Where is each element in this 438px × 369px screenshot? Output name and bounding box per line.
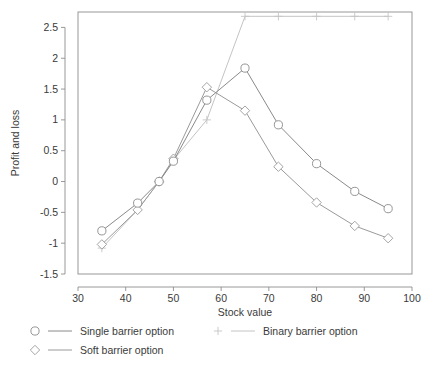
x-tick-label: 80 [311, 292, 323, 304]
chart-canvas: -1.5-1-0.500.511.522.5Profit and loss304… [0, 0, 438, 369]
series-point-circle [134, 199, 142, 207]
series-point-circle [169, 157, 177, 165]
x-tick-label: 100 [403, 292, 421, 304]
series-point-circle [203, 96, 211, 104]
y-tick-label: 2 [52, 52, 58, 64]
series-line [102, 68, 388, 231]
series-point-circle [351, 187, 359, 195]
plot-frame [78, 12, 412, 274]
series-point-circle [384, 205, 392, 213]
series-line [102, 16, 388, 248]
legend-label: Soft barrier option [80, 344, 164, 356]
series-point-plus [384, 12, 392, 20]
series-point-diamond [383, 234, 392, 243]
x-axis-title: Stock value [218, 306, 272, 318]
chart-figure: -1.5-1-0.500.511.522.5Profit and loss304… [0, 0, 438, 369]
legend-label: Single barrier option [80, 325, 174, 337]
series-point-circle [274, 121, 282, 129]
x-tick-label: 60 [215, 292, 227, 304]
plus-icon [214, 327, 222, 335]
y-tick-label: -1 [49, 237, 58, 249]
y-tick-label: 0 [52, 175, 58, 187]
series-point-diamond [350, 221, 359, 230]
x-tick-label: 30 [72, 292, 84, 304]
series-point-plus [241, 12, 249, 20]
series-point-diamond [202, 83, 211, 92]
y-tick-label: 1 [52, 113, 58, 125]
series-point-circle [312, 160, 320, 168]
x-tick-label: 40 [120, 292, 132, 304]
series-point-plus [351, 12, 359, 20]
y-tick-label: -0.5 [40, 206, 58, 218]
series-point-plus [274, 12, 282, 20]
series-point-diamond [240, 106, 249, 115]
x-tick-label: 50 [168, 292, 180, 304]
x-tick-label: 70 [263, 292, 275, 304]
y-tick-label: 1.5 [43, 83, 58, 95]
y-axis-title: Profit and loss [9, 110, 21, 177]
y-tick-label: 2.5 [43, 21, 58, 33]
series-point-circle [98, 227, 106, 235]
x-tick-label: 90 [358, 292, 370, 304]
circle-icon [31, 327, 39, 335]
legend-label: Binary barrier option [263, 325, 358, 337]
y-tick-label: 0.5 [43, 144, 58, 156]
series-point-plus [312, 12, 320, 20]
series-point-circle [241, 64, 249, 72]
diamond-icon [30, 345, 39, 354]
y-tick-label: -1.5 [40, 268, 58, 280]
series-point-circle [155, 177, 163, 185]
